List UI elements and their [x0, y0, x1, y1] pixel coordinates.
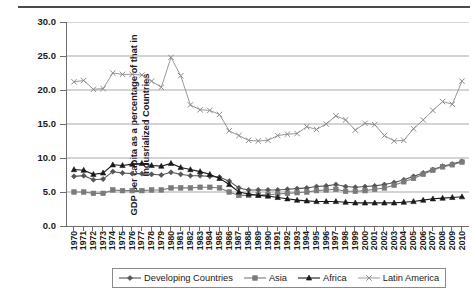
x-axis-tick-label: 1972 [88, 231, 98, 250]
x-axis-tick [189, 227, 190, 231]
x-axis-tick [403, 227, 404, 231]
x-axis-tick [199, 227, 200, 231]
x-axis-tick-label: 1983 [195, 231, 205, 250]
x-axis-tick [383, 227, 384, 231]
x-axis-tick [257, 227, 258, 231]
y-axis-tick-label: 10.0 [16, 152, 56, 163]
x-axis-tick-label: 1997 [330, 231, 340, 250]
x-axis-tick-label: 2008 [437, 231, 447, 250]
x-axis-tick [238, 227, 239, 231]
x-axis-tick [92, 227, 93, 231]
x-axis-tick-label: 1989 [253, 231, 263, 250]
x-axis-tick [364, 227, 365, 231]
x-axis-tick-label: 1985 [214, 231, 224, 250]
x-axis-tick [286, 227, 287, 231]
x-axis-tick-label: 1975 [117, 231, 127, 250]
x-axis-tick-label: 1991 [272, 231, 282, 250]
x-axis-tick-label: 1996 [321, 231, 331, 250]
x-axis-tick-label: 1978 [146, 231, 156, 250]
x-axis-tick-label: 2009 [447, 231, 457, 250]
legend-item-diamond: Developing Countries [119, 273, 233, 283]
x-axis-tick-label: 2000 [360, 231, 370, 250]
x-axis-tick-label: 1992 [282, 231, 292, 250]
x-axis-tick [122, 227, 123, 231]
plot-area [66, 22, 469, 227]
legend-item-label: Asia [269, 273, 287, 283]
x-axis-tick [354, 227, 355, 231]
x-axis-tick [451, 227, 452, 231]
x-axis-tick-label: 1971 [78, 231, 88, 250]
x-axis-tick [102, 227, 103, 231]
x-axis-tick [442, 227, 443, 231]
x-axis-tick [422, 227, 423, 231]
x-axis-tick-label: 1974 [107, 231, 117, 250]
x-axis-tick-label: 1988 [243, 231, 253, 250]
x-axis-tick-label: 1993 [292, 231, 302, 250]
x-axis-tick-label: 1990 [263, 231, 273, 250]
x-axis-tick [461, 227, 462, 231]
x-axis-tick-label: 1976 [127, 231, 137, 250]
x-axis-tick-label: 2004 [398, 231, 408, 250]
x-axis-tick-label: 1986 [224, 231, 234, 250]
x-axis-tick [267, 227, 268, 231]
triangle-marker-icon [298, 273, 320, 283]
x-axis-tick-label: 1973 [98, 231, 108, 250]
x-axis-tick [306, 227, 307, 231]
x-axis-tick [393, 227, 394, 231]
x-axis-tick [73, 227, 74, 231]
x-axis-tick [248, 227, 249, 231]
top-rule-divider [18, 6, 470, 8]
x-axis-tick [335, 227, 336, 231]
x-axis-tick-label: 1999 [350, 231, 360, 250]
x-axis-tick-label: 1981 [175, 231, 185, 250]
x-axis-tick [180, 227, 181, 231]
x-axis-tick [83, 227, 84, 231]
x-axis-tick [296, 227, 297, 231]
x-axis-tick-label: 2001 [369, 231, 379, 250]
x-axis-tick-label: 2002 [379, 231, 389, 250]
cross-marker-icon [358, 273, 380, 283]
diamond-marker-icon [119, 273, 141, 283]
legend-item-triangle: Africa [298, 273, 347, 283]
x-axis-tick [316, 227, 317, 231]
y-axis-tick-label: 5.0 [16, 186, 56, 197]
y-axis-tick-label: 25.0 [16, 50, 56, 61]
x-axis-tick [209, 227, 210, 231]
legend-item-label: Africa [323, 273, 347, 283]
legend-item-square: Asia [244, 273, 287, 283]
x-axis-tick-label: 2006 [418, 231, 428, 250]
legend-item-cross: Latin America [358, 273, 439, 283]
x-axis-tick [219, 227, 220, 231]
x-axis-tick [432, 227, 433, 231]
chart-canvas [67, 22, 469, 226]
chart-figure: GDP per capita as a percentage of that i… [0, 0, 474, 296]
x-axis-tick-label: 1979 [156, 231, 166, 250]
x-axis-tick [170, 227, 171, 231]
x-axis-tick [413, 227, 414, 231]
x-axis-tick-label: 1977 [136, 231, 146, 250]
x-axis-tick-label: 1980 [166, 231, 176, 250]
x-axis-tick-label: 1994 [301, 231, 311, 250]
x-axis-tick-label: 1987 [233, 231, 243, 250]
y-axis-tick-label: 0.0 [16, 220, 56, 231]
x-axis-tick [345, 227, 346, 231]
y-axis-tick-label: 30.0 [16, 16, 56, 27]
x-axis-tick-label: 1970 [69, 231, 79, 250]
x-axis-tick-label: 2007 [427, 231, 437, 250]
x-axis-tick [228, 227, 229, 231]
y-axis-tick-label: 15.0 [16, 118, 56, 129]
chart-legend: Developing CountriesAsiaAfricaLatin Amer… [112, 268, 446, 288]
y-axis-tick-label: 20.0 [16, 84, 56, 95]
x-axis-tick-label: 2005 [408, 231, 418, 250]
x-axis-tick [112, 227, 113, 231]
legend-item-label: Latin America [383, 273, 439, 283]
x-axis-tick-label: 1982 [185, 231, 195, 250]
x-axis-tick [277, 227, 278, 231]
x-axis-tick [160, 227, 161, 231]
legend-item-label: Developing Countries [144, 273, 233, 283]
x-axis-tick [325, 227, 326, 231]
x-axis-tick-label: 1995 [311, 231, 321, 250]
x-axis-tick-label: 2003 [389, 231, 399, 250]
x-axis-tick-label: 1998 [340, 231, 350, 250]
square-marker-icon [244, 273, 266, 283]
